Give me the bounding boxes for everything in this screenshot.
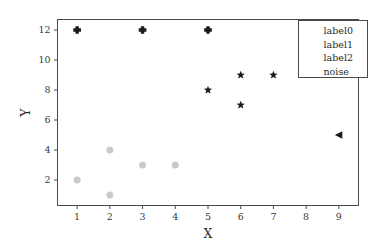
x-tick-label: 8 — [296, 211, 316, 222]
y-tick-label: 8 — [24, 84, 51, 95]
data-point-label1 — [237, 71, 245, 79]
x-tick-label: 7 — [263, 211, 283, 222]
y-tick-label: 4 — [24, 144, 51, 155]
legend-label-noise: noise — [324, 66, 349, 77]
data-point-label1 — [237, 101, 245, 109]
y-tick-label: 12 — [24, 24, 51, 35]
scatter-plot-figure: 12345678924681012 Y X label0label1label2… — [0, 0, 375, 247]
data-point-label1 — [269, 71, 277, 79]
x-tick-label: 5 — [198, 211, 218, 222]
y-axis-label: Y — [17, 95, 32, 129]
data-point-label0 — [106, 147, 113, 154]
data-point-label2 — [139, 26, 147, 34]
data-point-noise — [335, 131, 343, 138]
data-point-label0 — [74, 177, 81, 184]
legend-label-label1: label1 — [324, 39, 354, 50]
legend-label-label0: label0 — [324, 25, 354, 36]
data-point-label1 — [204, 86, 212, 94]
y-tick-label: 10 — [24, 54, 51, 65]
data-point-label0 — [172, 162, 179, 169]
x-tick-label: 3 — [133, 211, 153, 222]
x-tick-label: 1 — [67, 211, 87, 222]
x-tick-label: 9 — [329, 211, 349, 222]
data-point-label2 — [204, 26, 212, 34]
x-tick-label: 2 — [100, 211, 120, 222]
data-point-label0 — [106, 192, 113, 199]
y-tick-label: 2 — [24, 174, 51, 185]
x-axis-label: X — [188, 226, 228, 241]
legend-label-label2: label2 — [324, 52, 354, 63]
data-point-label0 — [139, 162, 146, 169]
axis-ticks — [54, 30, 339, 209]
data-point-label2 — [73, 26, 81, 34]
x-tick-label: 4 — [165, 211, 185, 222]
x-tick-label: 6 — [231, 211, 251, 222]
